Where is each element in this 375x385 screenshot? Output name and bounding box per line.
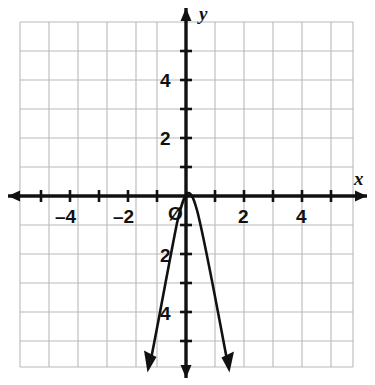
curve-arrow-right <box>222 352 235 373</box>
y-tick-label-neg4: 4 <box>160 303 171 324</box>
y-axis-label: y <box>197 3 208 24</box>
curve-arrow-left <box>144 351 157 373</box>
coordinate-plane-svg: y x Ø –4 –2 2 4 4 2 2 4 <box>0 0 375 385</box>
y-tick-label-2: 2 <box>160 128 171 149</box>
x-tick-label-neg4: –4 <box>55 206 77 227</box>
x-axis-label: x <box>353 168 364 189</box>
x-tick-label-4: 4 <box>296 206 307 227</box>
graph-canvas: y x Ø –4 –2 2 4 4 2 2 4 <box>0 0 375 385</box>
origin-label: Ø <box>168 203 183 224</box>
y-tick-label-neg2: 2 <box>160 245 171 266</box>
x-tick-label-neg2: –2 <box>113 206 134 227</box>
y-tick-label-4: 4 <box>160 70 171 91</box>
x-tick-label-2: 2 <box>238 206 249 227</box>
